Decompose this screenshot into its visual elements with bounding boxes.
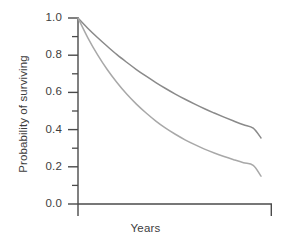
y-tick-label-0.6: 0.6: [28, 85, 62, 97]
y-tick-label-1.0: 1.0: [28, 11, 62, 23]
survival-curve-figure: 1.0 0.8 0.6 0.4 0.2 0.0 Probability of s…: [0, 0, 291, 246]
y-tick-label-0.4: 0.4: [28, 123, 62, 135]
upper-survival-curve: [78, 18, 261, 138]
y-tick-label-0.2: 0.2: [28, 160, 62, 172]
y-axis-minor-ticks: [72, 37, 78, 186]
x-axis-title: Years: [0, 222, 291, 234]
y-axis-title: Probability of surviving: [17, 34, 29, 194]
y-tick-label-0.0: 0.0: [28, 197, 62, 209]
lower-survival-curve: [78, 18, 261, 176]
y-tick-label-0.8: 0.8: [28, 48, 62, 60]
